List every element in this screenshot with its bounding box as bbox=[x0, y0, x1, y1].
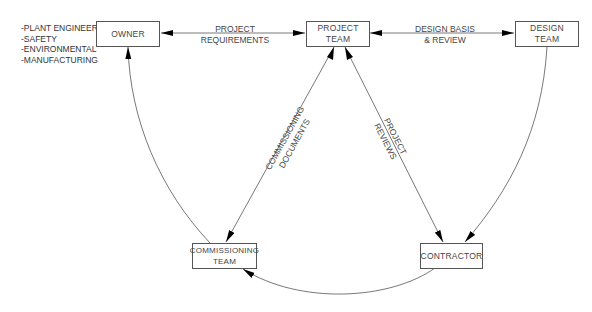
owner-note: -ENVIRONMENTAL bbox=[21, 44, 98, 55]
node-label: COMMISSIONING bbox=[190, 245, 259, 256]
arrowhead-icon bbox=[161, 30, 173, 36]
node-commissioning-team[interactable]: COMMISSIONING TEAM bbox=[192, 243, 257, 269]
owner-note: -SAFETY bbox=[21, 34, 98, 45]
node-project-team[interactable]: PROJECT TEAM bbox=[306, 21, 370, 47]
owner-notes-list: -PLANT ENGINEER -SAFETY -ENVIRONMENTAL -… bbox=[21, 23, 98, 65]
edge-label-design-basis: DESIGN BASIS & REVIEW bbox=[405, 24, 485, 46]
node-label: PROJECT bbox=[317, 23, 358, 34]
edge-contractor-commissioning bbox=[243, 268, 435, 294]
node-contractor[interactable]: CONTRACTOR bbox=[420, 243, 483, 269]
edge-commissioning-owner bbox=[128, 47, 210, 243]
arrowhead-icon bbox=[345, 47, 353, 60]
node-owner[interactable]: OWNER bbox=[96, 21, 160, 47]
edge-label-line: REQUIREMENTS bbox=[190, 35, 280, 46]
edge-label-line: & REVIEW bbox=[405, 35, 485, 46]
node-label: OWNER bbox=[111, 29, 145, 40]
node-label: CONTRACTOR bbox=[421, 251, 483, 262]
node-design-team[interactable]: DESIGN TEAM bbox=[515, 21, 579, 47]
node-label: TEAM bbox=[535, 34, 559, 45]
owner-note: -PLANT ENGINEER bbox=[21, 23, 98, 34]
edge-label-line: PROJECT bbox=[190, 24, 280, 35]
node-label: TEAM bbox=[213, 256, 236, 267]
edge-design-contractor bbox=[465, 47, 547, 242]
node-label: TEAM bbox=[326, 34, 350, 45]
edge-label-line: DESIGN BASIS bbox=[405, 24, 485, 35]
node-label: DESIGN bbox=[530, 23, 564, 34]
edge-label-project-requirements: PROJECT REQUIREMENTS bbox=[190, 24, 280, 46]
owner-note: -MANUFACTURING bbox=[21, 55, 98, 66]
arrowhead-icon bbox=[370, 30, 382, 36]
